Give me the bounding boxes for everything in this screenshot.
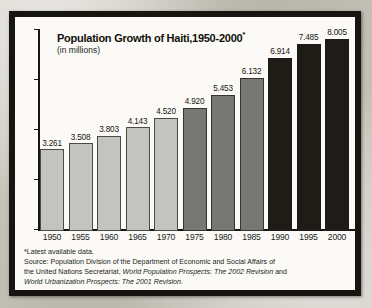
chart-title: Population Growth of Haiti,1950-2000* [57, 31, 245, 44]
footnote-conjunction: and [273, 268, 287, 276]
bar-group[interactable]: 7.485 [297, 29, 321, 231]
bar[interactable] [211, 95, 235, 231]
x-axis-tick-label: 1980 [211, 233, 235, 242]
bar-group[interactable]: 3.803 [97, 29, 121, 231]
bar-group[interactable]: 6.132 [240, 29, 264, 231]
bar-group[interactable]: 3.508 [69, 29, 93, 231]
footnote-source-prefix: Source: Population Division of the Depar… [24, 258, 275, 266]
x-axis-tick-labels: 1950195519601965197019751980198519901995… [40, 233, 349, 242]
footnote-block: *Latest available data. Source: Populati… [24, 247, 347, 287]
y-axis-tick-mark [34, 179, 38, 180]
chart-subtitle: (in millions) [57, 46, 245, 55]
bar[interactable] [40, 149, 64, 231]
bar-value-label: 7.485 [299, 34, 319, 42]
y-axis-tick-mark [34, 129, 38, 130]
bar[interactable] [126, 127, 150, 231]
y-axis-tick-mark [34, 229, 38, 230]
bar[interactable] [325, 39, 349, 231]
bar[interactable] [154, 118, 178, 231]
chart-title-footnote-marker: * [242, 31, 244, 38]
bar[interactable] [268, 58, 292, 231]
x-axis-tick-label: 1975 [183, 233, 207, 242]
bar-group[interactable]: 4.520 [154, 29, 178, 231]
bar-value-label: 4.520 [156, 108, 176, 116]
x-axis-tick-label: 1985 [240, 233, 264, 242]
bar[interactable] [183, 108, 207, 231]
figure-inner: 02468 3.2613.5083.8034.1434.5204.9205.45… [15, 17, 355, 290]
chart-title-text: Population Growth of Haiti,1950-2000 [57, 32, 242, 44]
x-axis-tick-label: 1960 [97, 233, 121, 242]
bar-group[interactable]: 6.914 [268, 29, 292, 231]
bar[interactable] [297, 44, 321, 231]
footnote-line-2: Source: Population Division of the Depar… [24, 257, 347, 267]
y-axis-tick-mark [34, 79, 38, 80]
bar[interactable] [240, 78, 264, 231]
footnote-publication-1: World Population Prospects: The 2002 Rev… [123, 268, 274, 276]
bar-value-label: 4.920 [185, 98, 205, 106]
bar-group[interactable]: 5.453 [211, 29, 235, 231]
bar-value-label: 8.005 [327, 29, 347, 37]
bar[interactable] [97, 136, 121, 231]
footnote-secretariat-text: the United Nations Secretariat, [24, 268, 123, 276]
x-axis-tick-label: 2000 [325, 233, 349, 242]
bar-value-label: 3.261 [42, 140, 62, 148]
x-axis-tick-label: 1970 [154, 233, 178, 242]
bar-group[interactable]: 4.143 [126, 29, 150, 231]
bar-value-label: 6.132 [242, 68, 262, 76]
x-axis-tick-label: 1950 [40, 233, 64, 242]
x-axis-tick-label: 1990 [268, 233, 292, 242]
y-axis-tick-mark [34, 29, 38, 30]
footnote-period: . [181, 278, 183, 286]
bar[interactable] [69, 143, 93, 231]
bar-group[interactable]: 4.920 [183, 29, 207, 231]
bar-value-label: 6.914 [270, 48, 290, 56]
bar-group[interactable]: 3.261 [40, 29, 64, 231]
title-block: Population Growth of Haiti,1950-2000* (i… [57, 31, 245, 55]
x-axis-tick-label: 1965 [126, 233, 150, 242]
bar-value-label: 4.143 [128, 118, 148, 126]
x-axis-tick-label: 1995 [297, 233, 321, 242]
x-axis-tick-label: 1955 [69, 233, 93, 242]
footnote-line-1: *Latest available data. [24, 247, 347, 257]
bar-value-label: 5.453 [213, 85, 233, 93]
figure-frame: 02468 3.2613.5083.8034.1434.5204.9205.45… [9, 11, 361, 296]
bar-value-label: 3.803 [99, 126, 119, 134]
footnote-publication-2: World Urbanization Prospects: The 2001 R… [24, 278, 181, 286]
bar-value-label: 3.508 [71, 134, 91, 142]
footnote-line-3: the United Nations Secretariat, World Po… [24, 267, 347, 277]
bar-group[interactable]: 8.005 [325, 29, 349, 231]
bar-series: 3.2613.5083.8034.1434.5204.9205.4536.132… [40, 29, 349, 231]
footnote-line-4: World Urbanization Prospects: The 2001 R… [24, 277, 347, 287]
